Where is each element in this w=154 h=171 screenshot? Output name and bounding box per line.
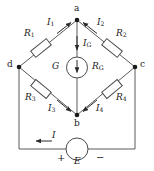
resistor-label-R2: R2 [116, 29, 127, 38]
node-dot-d [17, 65, 22, 70]
current-label-I: I [52, 131, 56, 140]
current-label-I1-sub: 1 [51, 20, 55, 27]
galvanometer-resistance-sub: G [99, 64, 104, 71]
circuit-schematic [0, 0, 154, 171]
node-label-a: a [74, 4, 79, 13]
resistor-label-R1: R1 [24, 29, 35, 38]
current-label-IG: IG [83, 39, 91, 48]
emf-polarity-minus: − [96, 153, 104, 163]
resistor-label-R1-sub: 1 [31, 31, 35, 38]
resistor-label-R3-base: R [25, 92, 32, 102]
galvanometer-symbol [67, 57, 88, 78]
current-label-IG-sub: G [87, 41, 92, 48]
current-arrow-I1 [57, 23, 71, 34]
galvanometer-resistance-label: RG [92, 62, 104, 71]
galvanometer-label-G: G [52, 62, 59, 71]
resistor-R1-body [31, 39, 52, 58]
resistor-label-R4: R4 [116, 93, 127, 102]
resistor-R2-body [102, 39, 123, 58]
current-label-I3-sub: 3 [52, 106, 56, 113]
emf-label-E: E [74, 157, 81, 166]
wheatstone-bridge-figure: a b c d R1 R2 R3 R4 G RG I1 I2 IG I3 I4 … [0, 0, 154, 171]
resistor-label-R4-sub: 4 [123, 95, 127, 102]
node-label-b: b [74, 119, 80, 128]
current-label-I3: I3 [48, 104, 55, 113]
emf-polarity-plus: + [57, 153, 65, 163]
resistor-label-R3-sub: 3 [32, 95, 36, 102]
current-arrow-I3 [57, 100, 71, 112]
current-label-I4-sub: 4 [100, 106, 104, 113]
node-label-c: c [140, 60, 145, 69]
galvanometer-resistance-base: R [92, 61, 99, 71]
node-label-d: d [7, 60, 13, 69]
resistor-label-R1-base: R [24, 28, 31, 38]
node-dot-c [133, 65, 138, 70]
resistor-label-R2-base: R [116, 28, 123, 38]
current-arrow-I4 [83, 100, 97, 112]
node-dot-b [75, 113, 80, 118]
resistor-label-R3: R3 [25, 93, 36, 102]
current-label-I2: I2 [97, 18, 104, 27]
resistor-label-R2-sub: 2 [123, 31, 127, 38]
current-arrow-I2 [83, 23, 97, 34]
node-dot-a [75, 18, 80, 23]
current-label-I2-sub: 2 [101, 20, 105, 27]
current-label-I1: I1 [47, 18, 54, 27]
current-label-I4: I4 [96, 104, 103, 113]
resistor-label-R4-base: R [116, 92, 123, 102]
